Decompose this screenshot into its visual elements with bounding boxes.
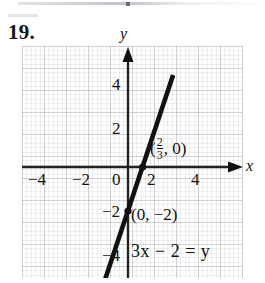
annotation-x-intercept-rest: , 0) [164,139,187,158]
annotation-y-intercept: (0, −2) [131,206,177,223]
equation-label: 3x − 2 = y [131,242,210,260]
origin-label-0: 0 [112,171,121,188]
x-tick-label-2: 2 [147,171,156,188]
fraction-denominator: 3 [157,148,163,161]
fraction-numerator: 2 [157,136,163,148]
annotation-x-intercept: (23, 0) [150,136,186,161]
x-axis-label: x [246,158,253,174]
y-tick-label-neg2: −2 [102,203,120,220]
scan-artifact-strip [18,2,258,5]
paren-open: ( [150,139,156,158]
scan-artifact-smudge [8,14,38,17]
point-x-intercept [139,163,146,170]
graph-plot-area: −4 −2 0 2 4 4 2 −2 −4 y x (23, 0) (0, −2… [22,46,243,278]
y-tick-label-2: 2 [112,120,121,137]
x-axis [22,162,243,173]
x-tick-label-4: 4 [191,171,200,188]
x-tick-label-neg2: −2 [72,171,90,188]
y-tick-label-4: 4 [112,76,121,93]
y-tick-label-neg4: −4 [102,247,120,264]
problem-number: 19. [8,20,35,45]
x-tick-label-neg4: −4 [28,171,46,188]
fraction-two-thirds: 23 [157,136,163,161]
scan-artifact-dot [126,2,130,6]
y-axis-label: y [120,26,127,42]
worksheet-figure: 19. [0,0,265,283]
